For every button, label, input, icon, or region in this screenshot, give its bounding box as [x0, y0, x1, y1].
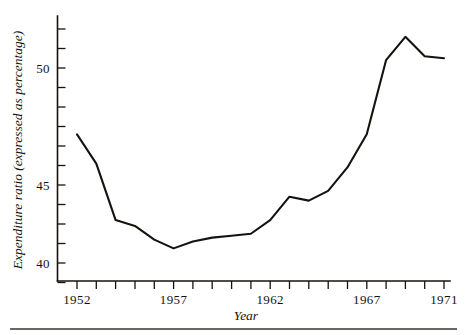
y-tick-label-40: 40: [36, 256, 50, 271]
y-axis-title: Expenditure ratio (expressed as percenta…: [10, 30, 25, 270]
x-tick-label-1957: 1957: [160, 292, 188, 307]
x-tick-label-1952: 1952: [63, 292, 91, 307]
y-tick-label-45: 45: [36, 178, 50, 193]
chart-figure: 40 45 50 1952 1957: [0, 0, 467, 335]
x-tick-marks: [77, 281, 444, 289]
y-tick-label-50: 50: [36, 61, 50, 76]
x-tick-label-1962: 1962: [256, 292, 284, 307]
y-tick-marks: [58, 29, 66, 283]
expenditure-ratio-line: [77, 37, 444, 249]
x-axis-title: Year: [234, 308, 259, 323]
line-chart: 40 45 50 1952 1957: [0, 0, 467, 335]
x-tick-label-1971: 1971: [430, 292, 458, 307]
x-tick-label-1967: 1967: [353, 292, 381, 307]
